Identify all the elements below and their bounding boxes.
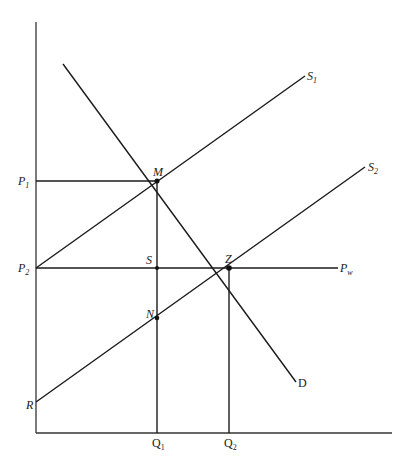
q1-label: Q1	[152, 436, 165, 452]
q2-label: Q2	[224, 436, 237, 452]
p1-label: P1	[17, 174, 29, 190]
s2-label: S2	[368, 160, 378, 176]
s-point-label: S	[146, 253, 152, 267]
point-n-marker	[155, 316, 160, 321]
s1-label: S1	[307, 69, 317, 85]
point-m-marker	[155, 179, 160, 184]
point-s-marker	[155, 266, 159, 270]
d-label: D	[298, 376, 307, 390]
r-label: R	[25, 398, 34, 412]
supply-curve-s2	[36, 167, 365, 402]
p2-label: P2	[17, 261, 29, 277]
point-z-marker	[226, 265, 232, 271]
pw-label: Pw	[339, 261, 353, 277]
m-label: M	[152, 165, 164, 179]
z-label: Z	[225, 252, 232, 266]
supply-demand-diagram: S1 S2 D Pw P1 P2 R Q1 Q2 M S Z N	[0, 0, 397, 466]
n-label: N	[145, 307, 155, 321]
